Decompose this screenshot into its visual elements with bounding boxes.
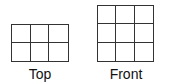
- front-view-label: Front: [100, 66, 152, 82]
- grid-cell: [98, 6, 116, 24]
- grid-cell: [116, 6, 134, 24]
- grid-cell: [135, 6, 153, 24]
- top-view-label: Top: [20, 66, 60, 82]
- top-view-grid: [11, 24, 69, 62]
- grid-cell: [31, 43, 50, 61]
- grid-cell: [12, 43, 31, 61]
- grid-cell: [98, 24, 116, 42]
- grid-cell: [31, 25, 50, 43]
- grid-cell: [49, 25, 68, 43]
- grid-cell: [12, 25, 31, 43]
- front-view-grid: [97, 5, 154, 62]
- grid-cell: [116, 24, 134, 42]
- grid-cell: [98, 43, 116, 61]
- grid-cell: [116, 43, 134, 61]
- grid-cell: [135, 24, 153, 42]
- grid-cell: [135, 43, 153, 61]
- grid-cell: [49, 43, 68, 61]
